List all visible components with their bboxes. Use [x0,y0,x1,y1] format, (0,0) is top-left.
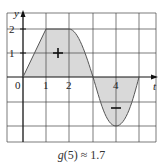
t-axis-label: t [153,81,156,92]
area-chart [0,0,163,145]
x-tick-2: 2 [66,80,72,91]
x-tick-1: 1 [43,80,49,91]
y-tick-2: 2 [9,24,15,35]
x-tick-4: 4 [113,80,119,91]
caption: g(5) ≈ 1.7 [0,148,163,163]
y-axis-arrow-icon [21,10,26,17]
y-tick-1: 1 [9,48,15,59]
y-axis-label: y [14,8,19,19]
t-axis-arrow-icon [151,75,158,80]
origin-label: 0 [15,80,21,91]
axes [7,12,156,142]
